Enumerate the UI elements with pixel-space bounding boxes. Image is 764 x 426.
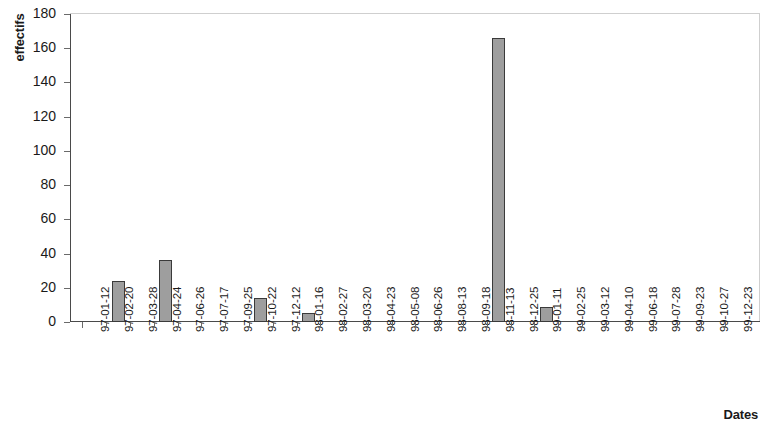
y-axis-tick-mark xyxy=(64,82,70,83)
x-axis-tick-mark xyxy=(201,322,202,328)
x-axis-title: Dates xyxy=(724,407,758,422)
x-axis-tick-mark xyxy=(558,322,559,328)
x-axis-tick-mark xyxy=(606,322,607,328)
x-axis-tick-mark xyxy=(582,322,583,328)
bar xyxy=(112,281,125,322)
bar-chart: effectifs 180160140120100806040200 97-01… xyxy=(0,0,764,426)
x-axis-tick-mark xyxy=(344,322,345,328)
x-axis-tick-mark xyxy=(273,322,274,328)
x-axis-tick-mark xyxy=(178,322,179,328)
x-axis-tick-mark xyxy=(320,322,321,328)
y-axis-tick-mark xyxy=(64,151,70,152)
y-axis-tick-mark xyxy=(64,14,70,15)
bar xyxy=(302,313,315,322)
y-axis-tick-label: 40 xyxy=(40,245,56,261)
y-axis-tick-mark xyxy=(64,48,70,49)
y-axis-tick-label: 60 xyxy=(40,210,56,226)
y-axis-tick-label: 100 xyxy=(33,142,56,158)
y-axis-tick-label: 0 xyxy=(48,313,56,329)
x-axis-tick-mark xyxy=(534,322,535,328)
y-axis-tick-label: 20 xyxy=(40,279,56,295)
y-axis-tick-label: 140 xyxy=(33,73,56,89)
bar xyxy=(254,298,267,322)
x-axis-tick-mark xyxy=(725,322,726,328)
x-axis-tick-mark xyxy=(677,322,678,328)
y-axis-tick-label: 120 xyxy=(33,108,56,124)
y-axis-title: effectifs xyxy=(12,0,27,81)
x-axis-tick-mark xyxy=(439,322,440,328)
x-axis-tick-mark xyxy=(701,322,702,328)
y-axis-tick-label: 160 xyxy=(33,39,56,55)
x-axis-tick-mark xyxy=(225,322,226,328)
x-axis-tick-mark xyxy=(82,322,83,328)
x-axis-tick-mark xyxy=(154,322,155,328)
x-axis-tick-mark xyxy=(630,322,631,328)
x-axis-tick-mark xyxy=(415,322,416,328)
y-axis-tick-mark xyxy=(64,117,70,118)
x-axis-tick-mark xyxy=(463,322,464,328)
x-axis-tick-mark xyxy=(106,322,107,328)
y-axis-tick-label: 80 xyxy=(40,176,56,192)
y-axis-tick-mark xyxy=(64,322,70,323)
bar xyxy=(159,260,172,322)
x-axis-tick-label: 99-12-23 xyxy=(742,287,754,332)
x-axis-tick-mark xyxy=(368,322,369,328)
bar xyxy=(540,307,553,322)
x-axis-tick-mark xyxy=(130,322,131,328)
x-axis-tick-mark xyxy=(511,322,512,328)
y-axis-tick-mark xyxy=(64,219,70,220)
y-axis-tick-mark xyxy=(64,254,70,255)
y-axis-tick-mark xyxy=(64,288,70,289)
y-axis-tick-label: 180 xyxy=(33,5,56,21)
x-axis-tick-mark xyxy=(653,322,654,328)
plot-area xyxy=(70,14,760,322)
bar xyxy=(492,38,505,322)
x-axis-tick-mark xyxy=(297,322,298,328)
x-axis-tick-mark xyxy=(392,322,393,328)
y-axis-tick-mark xyxy=(64,185,70,186)
x-axis-tick-mark xyxy=(487,322,488,328)
x-axis-tick-mark xyxy=(249,322,250,328)
